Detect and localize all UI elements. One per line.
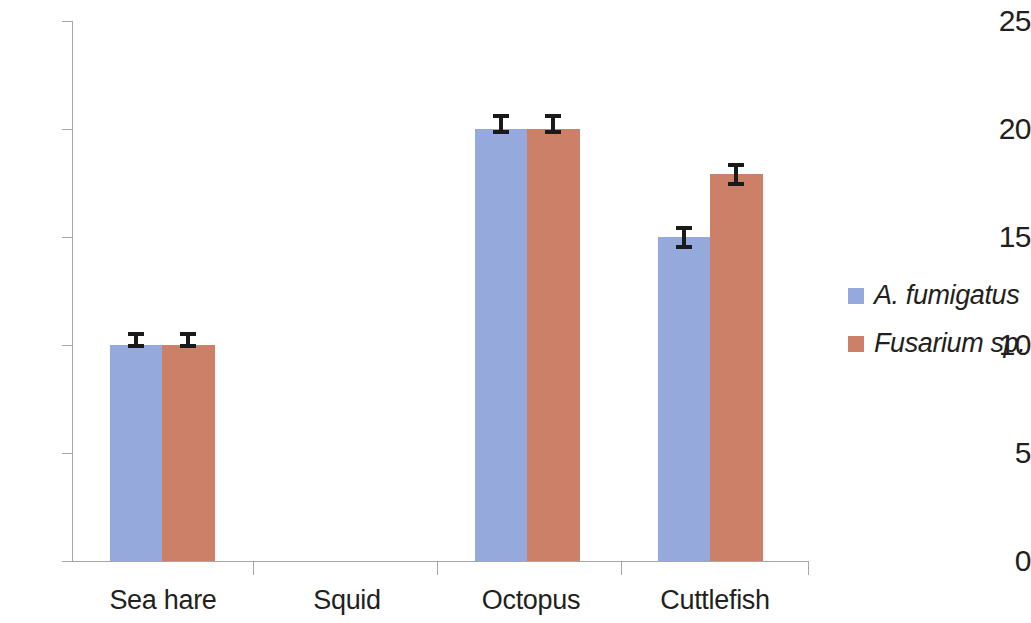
x-axis-line xyxy=(72,561,809,562)
error-bar-cuttlefish-a-fumigatus xyxy=(676,226,692,249)
legend-swatch-a-fumigatus xyxy=(848,288,864,304)
x-category-label-sea-hare: Sea hare xyxy=(87,585,239,615)
error-bar-octopus-a-fumigatus xyxy=(493,114,509,134)
y-tick-mark-5 xyxy=(62,453,72,454)
x-axis-tick-3 xyxy=(621,561,622,575)
legend-entry-a-fumigatus: A. fumigatus xyxy=(846,283,1031,331)
bar-cuttlefish-a-fumigatus xyxy=(658,237,710,561)
x-category-label-octopus: Octopus xyxy=(455,585,607,615)
bar-cuttlefish-fusarium-sp xyxy=(710,174,763,561)
error-bar-octopus-fusarium-sp xyxy=(545,114,561,134)
x-axis-tick-1 xyxy=(253,561,254,575)
bar-sea-hare-a-fumigatus xyxy=(110,345,162,561)
bar-group-squid-empty xyxy=(294,560,399,561)
y-tick-mark-25 xyxy=(62,21,72,22)
chart-legend: A. fumigatus Fusarium sp. xyxy=(846,283,1031,379)
y-tick-label-5: 5 xyxy=(975,438,1031,468)
legend-swatch-fusarium-sp xyxy=(848,336,864,352)
bar-octopus-a-fumigatus xyxy=(475,129,527,561)
legend-entry-fusarium-sp: Fusarium sp. xyxy=(846,331,1031,379)
y-tick-label-25: 25 xyxy=(975,6,1031,36)
y-tick-mark-0 xyxy=(62,561,72,562)
y-tick-label-15: 15 xyxy=(975,222,1031,252)
legend-label-fusarium-sp: Fusarium sp. xyxy=(874,326,1025,360)
y-tick-mark-15 xyxy=(62,237,72,238)
bars-layer xyxy=(72,21,808,561)
error-bar-sea-hare-fusarium-sp xyxy=(180,332,196,348)
y-tick-label-20: 20 xyxy=(975,114,1031,144)
y-tick-label-0: 0 xyxy=(975,546,1031,576)
legend-label-a-fumigatus: A. fumigatus xyxy=(874,278,1019,312)
error-bar-sea-hare-a-fumigatus xyxy=(128,332,144,348)
y-tick-mark-10 xyxy=(62,345,72,346)
bar-sea-hare-fusarium-sp xyxy=(162,345,215,561)
bar-octopus-fusarium-sp xyxy=(527,129,580,561)
x-category-label-cuttlefish: Cuttlefish xyxy=(639,585,791,615)
x-category-label-squid: Squid xyxy=(271,585,423,615)
error-bar-cuttlefish-fusarium-sp xyxy=(728,163,744,186)
bar-chart: 25 20 15 10 5 0 Sea hare Squid Octopus C… xyxy=(0,0,1031,623)
x-axis-tick-2 xyxy=(437,561,438,575)
y-tick-mark-20 xyxy=(62,129,72,130)
x-axis-end-tick xyxy=(808,561,809,575)
